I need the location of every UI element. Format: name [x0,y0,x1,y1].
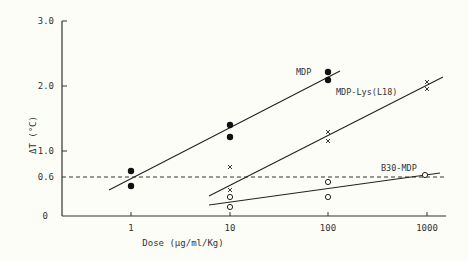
y-tick-3: 3.0 [38,16,54,26]
mdp-fit-line [109,71,340,190]
x-tick-1000: 1000 [416,223,438,233]
label-mdp-lys: MDP-Lys(L18) [336,87,397,97]
dose-response-chart: 3.0 2.0 1.0 0.6 0 ΔT (°C) 1 10 100 1000 … [0,0,468,262]
label-mdp: MDP [296,67,311,77]
mdp-lys-fit-line [209,77,443,196]
mdp-points [128,69,331,189]
x-axis-title: Dose (μg/ml/Kg) [142,238,223,248]
x-tick-10: 10 [225,223,236,233]
y-axis-title: ΔT (°C) [28,116,38,154]
y-tick-2: 2.0 [38,81,54,91]
mdp-lys-points [228,80,429,192]
x-tick-100: 100 [320,223,336,233]
y-tick-06: 0.6 [38,172,54,182]
b30-mdp-points [227,172,427,209]
x-tick-1: 1 [128,223,133,233]
y-ticks [62,21,67,151]
y-tick-1: 1.0 [38,146,54,156]
label-b30-mdp: B30-MDP [381,163,417,173]
y-tick-0: 0 [43,211,48,221]
